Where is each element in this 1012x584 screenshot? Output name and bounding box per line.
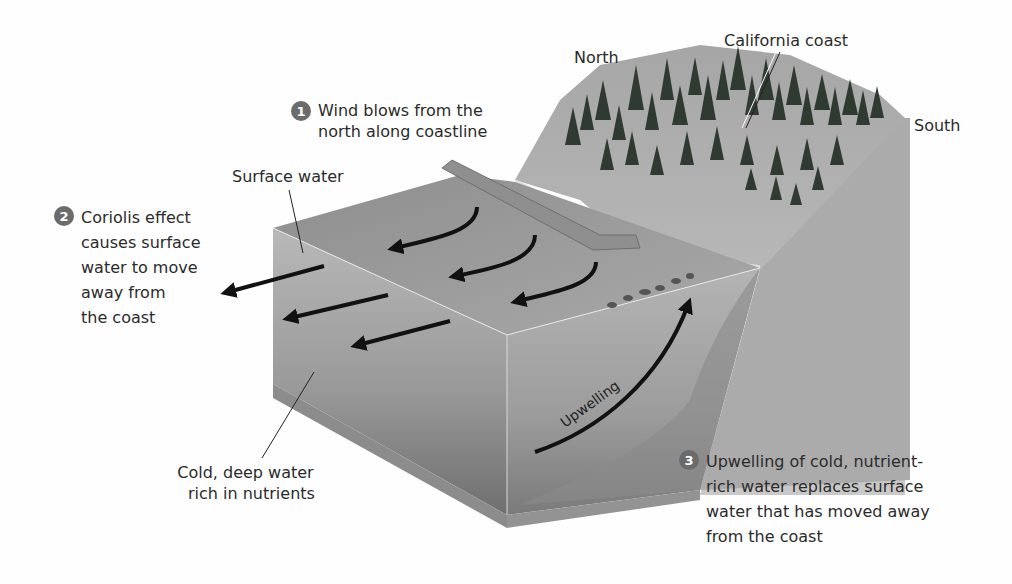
step-3-callout: 3 Upwelling of cold, nutrient- rich wate… (679, 449, 930, 549)
step-1-badge: 1 (291, 101, 311, 121)
step-1-callout: 1 Wind blows from the north along coastl… (291, 100, 487, 142)
california-coast-label: California coast (724, 30, 848, 51)
step-3-text: Upwelling of cold, nutrient- rich water … (706, 449, 930, 549)
deep-water-label: Cold, deep water rich in nutrients (176, 462, 315, 504)
surface-water-label: Surface water (232, 166, 344, 187)
step-1-text: Wind blows from the north along coastlin… (318, 100, 487, 142)
step-2-badge: 2 (54, 206, 74, 226)
step-3-badge: 3 (679, 450, 699, 470)
step-2-text: Coriolis effect causes surface water to … (81, 205, 200, 330)
step-2-callout: 2 Coriolis effect causes surface water t… (54, 205, 200, 330)
south-label: South (914, 115, 961, 136)
north-label: North (574, 47, 619, 68)
upwelling-diagram: Upwelling North California coast South S… (0, 0, 1012, 584)
